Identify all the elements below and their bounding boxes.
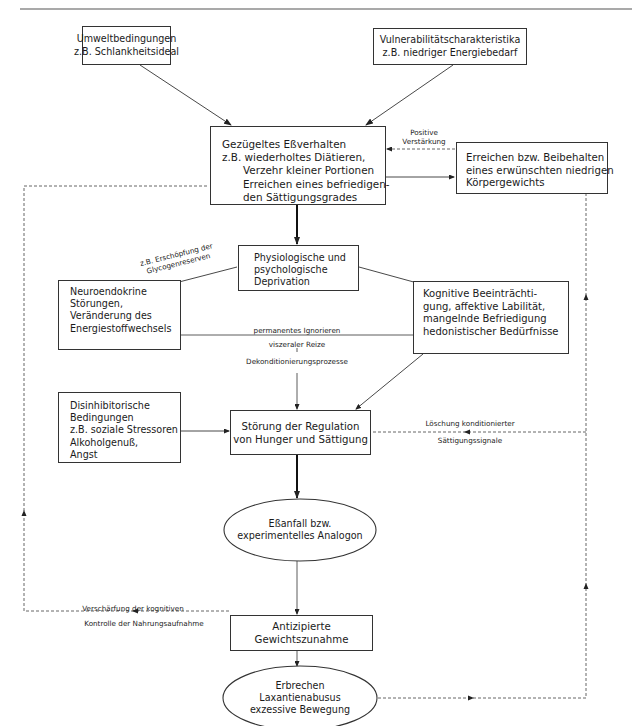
node-vulnerabilitaet: Vulnerabilitätscharakteristika z.B. nied… bbox=[373, 28, 527, 65]
node-stoerung-regulation: Störung der Regulation von Hunger und Sä… bbox=[230, 410, 371, 455]
node-umweltbedingungen: Umweltbedingungen z.B. Schlankheitsideal bbox=[82, 26, 171, 65]
edge-kognitiv-stoerung bbox=[356, 354, 423, 409]
node-erbrechen: Erbrechen Laxantienabusus exzessive Bewe… bbox=[223, 666, 377, 726]
node-deprivation: Physiologische und psychologische Depriv… bbox=[238, 245, 359, 291]
node-erreichen-koerpergewicht: Erreichen bzw. Beibehalten eines erwünsc… bbox=[456, 142, 608, 194]
node-gezuegeltes-essverhalten: Gezügeltes Eßverhalten z.B. wiederholtes… bbox=[210, 126, 386, 205]
edge-umwelt-gezuegelt bbox=[140, 65, 231, 125]
edge-vulnerabilitaet-gezuegelt bbox=[366, 65, 453, 125]
label-verschaerfung-kontrolle: Verschärfung der kognitiven Kontrolle de… bbox=[62, 603, 212, 629]
label-loeschung-konditionierter: Löschung konditionierter Sättigungssigna… bbox=[410, 418, 530, 446]
label-positive-verstaerkung: Positive Verstärkung bbox=[398, 128, 450, 146]
node-kognitive-beeintraechtigung: Kognitive Beeinträchti- gung, affektive … bbox=[413, 281, 569, 354]
node-essanfall: Eßanfall bzw. experimentelles Analogon bbox=[224, 499, 376, 561]
edge-erbrechen-erreichen-loop bbox=[378, 194, 586, 698]
label-permanentes-ignorieren: permanentes Ignorieren viszeraler Reize … bbox=[230, 325, 364, 368]
node-antizipierte-gewichtszunahme: Antizipierte Gewichtszunahme bbox=[230, 615, 373, 651]
node-disinhibitorische-bedingungen: Disinhibitorische Bedingungen z.B. sozia… bbox=[58, 392, 181, 463]
node-neuroendokrine-stoerungen: Neuroendokrine Störungen, Veränderung de… bbox=[58, 280, 181, 350]
